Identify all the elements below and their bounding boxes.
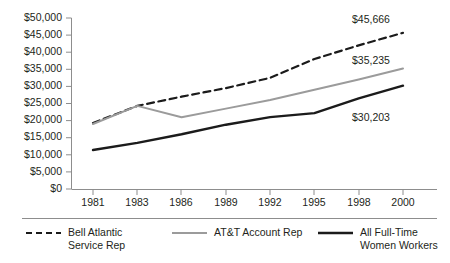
- y-tick-label: $35,000: [24, 62, 62, 74]
- data-label-women-workers: $30,203: [352, 111, 390, 123]
- x-tick-label: 1995: [302, 196, 326, 208]
- x-tick-label: 1992: [258, 196, 282, 208]
- y-tick-label: $15,000: [24, 130, 62, 142]
- legend-item-all-full-time-women-workers[interactable]: All Full-Time Women Workers: [318, 226, 438, 251]
- y-tick-label: $50,000: [24, 11, 62, 23]
- y-tick-labels: $50,000 $45,000 $40,000 $35,000 $30,000 …: [24, 11, 62, 194]
- line-chart-figure: $50,000 $45,000 $40,000 $35,000 $30,000 …: [0, 0, 450, 263]
- y-axis: $50,000 $45,000 $40,000 $35,000 $30,000 …: [24, 11, 71, 194]
- x-axis: 1981 1983 1986 1989 1992 1995 1998 2000: [72, 190, 438, 209]
- data-label-bell-atlantic: $45,666: [352, 13, 390, 25]
- y-tick-label: $45,000: [24, 28, 62, 40]
- x-tick-label: 2000: [391, 196, 415, 208]
- legend-item-label-line2: Service Rep: [68, 239, 125, 251]
- data-labels: $45,666 $35,235 $30,203: [352, 13, 390, 123]
- y-tick-label: $10,000: [24, 148, 62, 160]
- legend-item-label: All Full-Time: [360, 226, 418, 238]
- x-tick-labels: 1981 1983 1986 1989 1992 1995 1998 2000: [81, 196, 415, 208]
- chart-canvas: $50,000 $45,000 $40,000 $35,000 $30,000 …: [0, 0, 450, 263]
- plot-area: [93, 33, 403, 150]
- legend-item-label: AT&T Account Rep: [214, 226, 302, 238]
- x-tick-label: 1989: [214, 196, 238, 208]
- legend-item-att-account-rep[interactable]: AT&T Account Rep: [172, 226, 302, 238]
- y-tick-label: $40,000: [24, 45, 62, 57]
- x-tick-marks: [93, 190, 403, 196]
- y-tick-label: $30,000: [24, 79, 62, 91]
- x-tick-label: 1983: [125, 196, 149, 208]
- x-tick-label: 1986: [169, 196, 193, 208]
- y-tick-label: $25,000: [24, 96, 62, 108]
- y-tick-label: $5,000: [30, 165, 62, 177]
- y-tick-marks: [66, 18, 72, 189]
- legend-item-label: Bell Atlantic: [68, 226, 122, 238]
- chart-legend: Bell Atlantic Service Rep AT&T Account R…: [22, 219, 438, 251]
- y-tick-label: $0: [50, 182, 62, 194]
- x-tick-label: 1981: [81, 196, 105, 208]
- y-tick-label: $20,000: [24, 113, 62, 125]
- data-label-att: $35,235: [352, 54, 390, 66]
- x-tick-label: 1998: [347, 196, 371, 208]
- legend-item-bell-atlantic[interactable]: Bell Atlantic Service Rep: [26, 226, 125, 251]
- series-line-bell-atlantic-service-rep: [93, 33, 403, 123]
- legend-item-label-line2: Women Workers: [360, 239, 438, 251]
